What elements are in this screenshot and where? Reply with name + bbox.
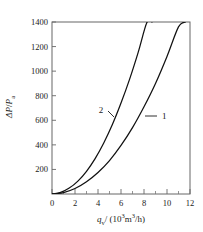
plot-frame [52, 22, 190, 194]
x-tick-label: 0 [50, 198, 54, 208]
leader-line-curve-2 [108, 111, 114, 117]
x-axis-units-metre: m [125, 214, 132, 224]
x-tick-label: 8 [142, 198, 146, 208]
x-tick-label: 6 [119, 198, 123, 208]
x-tick-label: 4 [96, 198, 101, 208]
y-tick-label: 600 [35, 115, 48, 125]
y-tick-label: 1200 [31, 42, 48, 52]
y-axis-ticks [52, 22, 56, 169]
y-axis-tick-labels: 200 400 600 800 1000 1200 1400 [31, 17, 48, 174]
curve-label-1: 1 [162, 111, 167, 121]
x-axis-label: qv/ (103m3/h) [52, 212, 190, 226]
curve-label-2: 2 [99, 105, 104, 115]
x-axis-units-per-hour: /h [135, 214, 142, 224]
data-curves [52, 20, 185, 194]
y-tick-label: 1400 [31, 17, 48, 27]
y-tick-label: 800 [35, 91, 48, 101]
figure-container: 200 400 600 800 1000 1200 1400 [0, 0, 203, 232]
y-tick-label: 1000 [31, 66, 48, 76]
y-tick-label: 200 [35, 164, 48, 174]
x-axis-tick-labels: 0 2 4 6 8 10 12 [50, 198, 194, 208]
chart-canvas: 200 400 600 800 1000 1200 1400 [0, 0, 203, 232]
x-tick-label: 2 [73, 198, 77, 208]
y-tick-label: 400 [35, 140, 48, 150]
plot-box [52, 22, 190, 194]
x-axis-units-close: ) [142, 214, 145, 224]
x-tick-label: 12 [186, 198, 195, 208]
x-tick-label: 10 [163, 198, 172, 208]
